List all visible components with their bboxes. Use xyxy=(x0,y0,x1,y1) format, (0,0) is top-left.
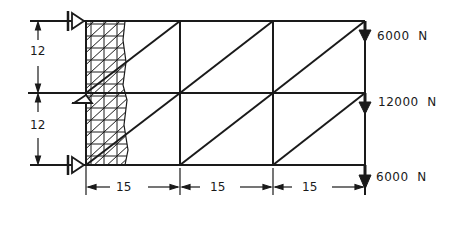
load-unit: N xyxy=(418,29,427,43)
dim-label-horizontal-3: 15 xyxy=(302,181,317,193)
load-value: 6000 xyxy=(376,170,409,184)
dim-label-horizontal-2: 15 xyxy=(210,181,225,193)
dim-label-vertical-top: 12 xyxy=(30,45,45,57)
dim-label-vertical-bottom: 12 xyxy=(30,119,45,131)
load-value: 6000 xyxy=(377,29,410,43)
arrow-down-icon xyxy=(359,102,371,114)
load-value: 12000 xyxy=(378,95,419,109)
dim-label-horizontal-1: 15 xyxy=(116,181,131,193)
load-label-bottom: 6000 N xyxy=(376,171,427,183)
load-unit: N xyxy=(427,95,436,109)
arrow-down-icon xyxy=(359,30,371,42)
load-label-middle: 12000 N xyxy=(378,96,437,108)
load-unit: N xyxy=(417,170,426,184)
load-label-top: 6000 N xyxy=(377,30,428,42)
